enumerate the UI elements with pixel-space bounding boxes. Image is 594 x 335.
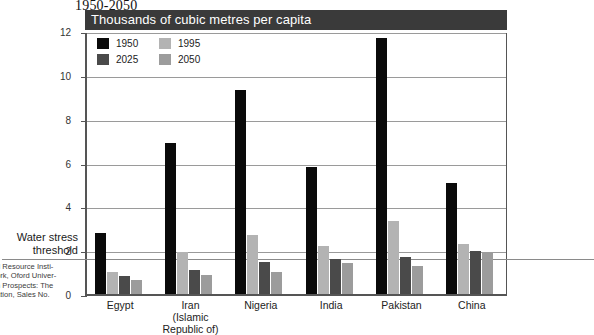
legend-item-1950[interactable]: 1950 [97, 38, 138, 49]
threshold-label-line-1: Water stress [0, 231, 78, 244]
bar-india-2050 [342, 263, 353, 294]
x-axis-label-line-2: (Islamic Republic of) [155, 311, 225, 335]
bar-china-1950 [446, 183, 457, 294]
bar-india-2025 [330, 259, 341, 294]
legend-item-2050[interactable]: 2050 [159, 54, 200, 65]
y-axis-tick [81, 77, 87, 78]
threshold-label-line-2: threshold [0, 244, 78, 257]
footnote-line-2: ork, Oford Univer- [0, 271, 68, 280]
water-stress-threshold-label: Water stressthreshold [0, 231, 78, 257]
gridline [87, 252, 506, 253]
x-axis-label-iran: Iran(Islamic Republic of) [155, 299, 225, 335]
y-axis-tick-label: 10 [49, 71, 71, 82]
y-axis-tick [81, 252, 87, 253]
gridline [87, 33, 506, 34]
bar-egypt-1950 [95, 233, 106, 294]
x-axis-label-line-1: Iran [155, 299, 225, 311]
x-axis-label-line-1: Pakistan [366, 299, 436, 311]
bar-india-1995 [318, 246, 329, 294]
x-axis-label-nigeria: Nigeria [226, 299, 296, 311]
plot-area: 1950199520252050 [85, 33, 507, 296]
source-footnote: d Resource Insti- ork, Oford Univer- n P… [0, 262, 68, 299]
bar-nigeria-1950 [235, 90, 246, 294]
x-axis-label-egypt: Egypt [85, 299, 155, 311]
legend-label-1950: 1950 [116, 38, 138, 49]
gridline [87, 121, 506, 122]
gridline [87, 208, 506, 209]
y-axis-tick-label: 4 [49, 202, 71, 213]
y-axis-tick [81, 296, 87, 297]
x-axis-label-line-1: China [437, 299, 507, 311]
bar-egypt-1995 [107, 272, 118, 294]
bar-nigeria-1995 [247, 235, 258, 294]
bar-china-2025 [470, 251, 481, 294]
bar-india-1950 [306, 167, 317, 294]
bar-pakistan-2025 [400, 257, 411, 294]
legend-item-1995[interactable]: 1995 [159, 38, 200, 49]
y-axis-tick [81, 33, 87, 34]
legend-label-2025: 2025 [116, 54, 138, 65]
y-axis-tick [81, 165, 87, 166]
x-axis-label-india: India [296, 299, 366, 311]
bar-nigeria-2050 [271, 272, 282, 294]
bar-china-1995 [458, 244, 469, 294]
x-axis-label-china: China [437, 299, 507, 311]
bar-iran-1995 [177, 252, 188, 294]
y-axis-tick-label: 8 [49, 115, 71, 126]
footnote-line-4: ation, Sales No. [0, 290, 68, 299]
gridline [87, 165, 506, 166]
bar-nigeria-2025 [259, 262, 270, 294]
y-axis-tick [81, 208, 87, 209]
legend-label-1995: 1995 [178, 38, 200, 49]
chart-title-banner: Thousands of cubic metres per capita [85, 10, 507, 30]
legend-item-2025[interactable]: 2025 [97, 54, 138, 65]
x-axis-label-line-1: Egypt [85, 299, 155, 311]
bar-iran-1950 [165, 143, 176, 294]
y-axis-tick [81, 121, 87, 122]
footnote-line-1: d Resource Insti- [0, 262, 68, 271]
bar-iran-2050 [201, 275, 212, 294]
legend-swatch-2050 [159, 54, 171, 65]
gridline [87, 77, 506, 78]
y-axis-tick-label: 6 [49, 159, 71, 170]
legend-label-2050: 2050 [178, 54, 200, 65]
bar-pakistan-1950 [376, 38, 387, 294]
bar-iran-2025 [189, 270, 200, 294]
chart-title-text: Thousands of cubic metres per capita [91, 12, 311, 27]
bar-china-2050 [482, 252, 493, 294]
x-axis-label-line-1: Nigeria [226, 299, 296, 311]
legend-swatch-2025 [97, 54, 109, 65]
x-axis-label-pakistan: Pakistan [366, 299, 436, 311]
x-axis-label-line-1: India [296, 299, 366, 311]
bar-egypt-2025 [119, 276, 130, 294]
legend-swatch-1995 [159, 38, 171, 49]
threshold-line [2, 259, 594, 260]
legend-swatch-1950 [97, 38, 109, 49]
y-axis-tick-label: 12 [49, 27, 71, 38]
bar-egypt-2050 [131, 280, 142, 294]
bar-pakistan-1995 [388, 221, 399, 294]
footnote-line-3: n Prospects: The [0, 281, 68, 290]
bar-pakistan-2050 [412, 266, 423, 294]
